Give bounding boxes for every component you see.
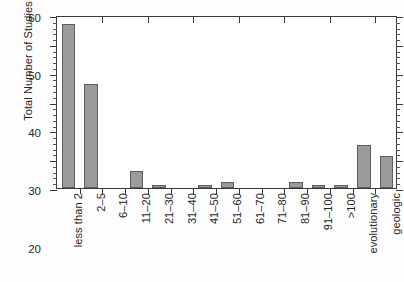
y-axis-minor-tick: [53, 138, 57, 139]
x-axis-tick-label: 51–60: [231, 193, 243, 224]
y-axis-minor-tick: [53, 127, 57, 128]
y-axis-minor-tick-right: [396, 144, 400, 145]
x-axis-tick-label: 21–30: [163, 193, 175, 224]
x-axis-top-tick: [193, 17, 194, 23]
y-axis-minor-tick: [53, 115, 57, 116]
x-axis-tick-label: 41–50: [208, 193, 220, 224]
y-axis-minor-tick: [53, 34, 57, 35]
x-axis-top-tick: [284, 17, 285, 23]
y-axis-minor-tick-right: [396, 63, 400, 64]
bar: [357, 145, 371, 188]
y-axis-tick-right: [396, 132, 403, 133]
x-axis-top-tick: [239, 17, 240, 23]
y-axis-minor-tick: [53, 150, 57, 151]
y-axis-minor-tick-right: [396, 138, 400, 139]
x-axis-tick-label: 61–70: [254, 193, 266, 224]
x-axis-tick-label: >100: [345, 193, 357, 218]
y-axis-minor-tick-right: [396, 86, 400, 87]
bar: [62, 24, 76, 188]
x-axis-tick-label: 71–80: [276, 193, 288, 224]
y-axis-minor-tick-right: [396, 29, 400, 30]
y-axis-minor-tick-right: [396, 40, 400, 41]
x-axis-top-tick: [102, 17, 103, 23]
y-axis-minor-tick: [53, 178, 57, 179]
x-axis-top-tick: [148, 17, 149, 23]
y-axis-tick-right: [396, 190, 403, 191]
y-axis-minor-tick-right: [396, 150, 400, 151]
bar: [221, 182, 235, 188]
plot-inner: 0102030405060: [57, 17, 396, 188]
x-axis-tick-labels: less than 22–56–1011–2021–3031–4041–5051…: [56, 193, 397, 281]
x-axis-tick-label: 91–100: [322, 193, 334, 230]
bar: [152, 185, 166, 188]
y-axis-minor-tick-right: [396, 92, 400, 93]
y-axis-minor-tick: [53, 173, 57, 174]
y-axis-minor-tick-right: [396, 167, 400, 168]
y-axis-tick-label: 20: [28, 243, 41, 255]
y-axis-minor-tick: [53, 23, 57, 24]
y-axis-minor-tick: [53, 144, 57, 145]
x-axis-tick-label: 2–5: [95, 193, 107, 212]
y-axis-minor-tick-right: [396, 109, 400, 110]
x-axis-tick-label: evolutionary: [367, 193, 379, 254]
plot-area: 0102030405060: [56, 16, 397, 189]
y-axis-tick: 40: [50, 75, 57, 76]
y-axis-tick-right: [396, 75, 403, 76]
y-axis-minor-tick: [53, 52, 57, 53]
bar: [130, 171, 144, 188]
x-axis-top-tick: [375, 17, 376, 23]
x-axis-tick-label: less than 2: [72, 193, 84, 247]
bar: [84, 84, 98, 188]
y-axis-tick: 10: [50, 161, 57, 162]
y-axis-minor-tick-right: [396, 155, 400, 156]
y-axis-minor-tick: [53, 121, 57, 122]
y-axis-minor-tick-right: [396, 121, 400, 122]
y-axis-minor-tick: [53, 40, 57, 41]
y-axis-minor-tick-right: [396, 115, 400, 116]
y-axis-minor-tick: [53, 109, 57, 110]
y-axis-tick: 60: [50, 17, 57, 18]
y-axis-minor-tick-right: [396, 69, 400, 70]
bar: [198, 185, 212, 188]
y-axis-minor-tick: [53, 184, 57, 185]
y-axis-tick-label: 40: [28, 127, 41, 139]
x-axis-tick-label: 11–20: [140, 193, 152, 223]
y-axis-minor-tick: [53, 167, 57, 168]
y-axis-minor-tick-right: [396, 173, 400, 174]
y-axis-minor-tick-right: [396, 98, 400, 99]
y-axis-tick-right: [396, 17, 403, 18]
y-axis-tick-label: 50: [28, 70, 41, 82]
bar: [312, 185, 326, 188]
y-axis-minor-tick-right: [396, 184, 400, 185]
bar: [380, 156, 394, 188]
y-axis-minor-tick-right: [396, 52, 400, 53]
x-axis-tick-label: geologic: [390, 193, 402, 235]
y-axis-minor-tick: [53, 63, 57, 64]
x-axis-tick-label: 81–90: [299, 193, 311, 224]
y-axis-minor-tick-right: [396, 127, 400, 128]
x-axis-top-tick: [330, 17, 331, 23]
y-axis-tick: 0: [50, 190, 57, 191]
y-axis-minor-tick-right: [396, 57, 400, 58]
y-axis-minor-tick: [53, 29, 57, 30]
y-axis-minor-tick: [53, 92, 57, 93]
y-axis-tick-label: 30: [28, 185, 41, 197]
y-axis-minor-tick: [53, 155, 57, 156]
y-axis-minor-tick: [53, 69, 57, 70]
y-axis-minor-tick-right: [396, 80, 400, 81]
y-axis-tick-right: [396, 161, 403, 162]
bar: [289, 182, 303, 188]
y-axis-tick-right: [396, 46, 403, 47]
y-axis-minor-tick: [53, 98, 57, 99]
y-axis-minor-tick-right: [396, 23, 400, 24]
y-axis-minor-tick-right: [396, 178, 400, 179]
y-axis-tick: 30: [50, 104, 57, 105]
y-axis-tick: 50: [50, 46, 57, 47]
y-axis-tick-right: [396, 104, 403, 105]
x-axis-tick-label: 31–40: [186, 193, 198, 224]
y-axis-minor-tick: [53, 86, 57, 87]
y-axis-minor-tick: [53, 57, 57, 58]
y-axis-tick: 20: [50, 132, 57, 133]
y-axis-minor-tick-right: [396, 34, 400, 35]
bar: [334, 185, 348, 188]
